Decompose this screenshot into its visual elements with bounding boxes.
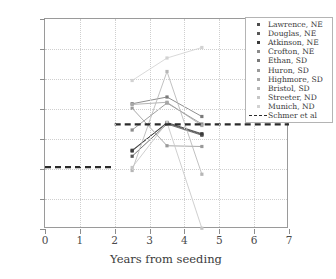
data-point-marker [200,132,203,135]
x-axis-title: Years from seeding [44,252,288,266]
data-series [131,95,204,118]
data-point-marker [200,115,203,118]
square-dot-icon [257,50,260,53]
x-axis-tick-label: 1 [70,235,90,245]
data-point-marker [165,70,168,73]
gridline-vertical [115,19,116,227]
x-axis-tick-label: 5 [209,235,229,245]
data-series [131,121,204,230]
gridline-horizontal [45,169,287,170]
chart-legend: Lawrence, NEDouglas, NEAtkinson, NECroft… [245,17,333,123]
legend-marker-icon [248,29,268,38]
gridline-vertical [150,19,151,227]
y-axis-tick [40,199,45,200]
legend-marker-icon [248,56,268,65]
x-axis-tick-label: 3 [140,235,160,245]
legend-item-label: Crofton, NE [268,47,314,56]
legend-item[interactable]: Ethan, SD [248,56,330,65]
series-layer [131,46,204,230]
data-series [131,101,204,131]
gridline-vertical [80,19,81,227]
data-point-marker [131,155,134,158]
data-point-marker [165,144,168,147]
data-point-marker [131,149,134,152]
square-dot-icon [257,105,260,108]
legend-item[interactable]: Crofton, NE [248,47,330,56]
legend-marker-icon [248,75,268,84]
square-dot-icon [257,87,260,90]
legend-item[interactable]: Schmer et al [248,111,330,120]
y-axis-tick [40,109,45,110]
square-dot-icon [257,32,260,35]
legend-item-label: Munich, ND [268,102,315,111]
data-point-marker [200,173,203,176]
legend-item[interactable]: Streeter, ND [248,93,330,102]
legend-item[interactable]: Munich, ND [248,102,330,111]
legend-item[interactable]: Douglas, NE [248,29,330,38]
legend-item[interactable]: Huron, SD [248,65,330,74]
legend-item[interactable]: Atkinson, NE [248,38,330,47]
legend-item[interactable]: Lawrence, NE [248,20,330,29]
square-dot-icon [257,23,260,26]
y-axis-tick [40,19,45,20]
chart-figure: Harvest yield, Mg water−free/ha 02468101… [0,0,336,279]
legend-item-label: Douglas, NE [268,29,316,38]
y-axis-tick [40,139,45,140]
legend-item-label: Lawrence, NE [268,20,323,29]
data-point-marker [131,103,134,106]
data-point-marker [200,145,203,148]
data-series [131,107,204,148]
legend-item-label: Bristol, SD [268,84,310,93]
data-series [131,122,204,157]
square-dot-icon [257,59,260,62]
data-point-marker [200,124,203,127]
y-axis-tick [40,49,45,50]
data-point-marker [131,128,134,131]
data-point-marker [165,101,168,104]
data-point-marker [165,95,168,98]
y-axis-title-container: Harvest yield, Mg water−free/ha [0,18,16,228]
series-line [132,97,202,117]
data-series [131,46,204,82]
legend-item-label: Atkinson, NE [268,38,319,47]
legend-marker-icon [248,66,268,75]
legend-item-label: Highmore, SD [268,75,323,84]
legend-item[interactable]: Bristol, SD [248,84,330,93]
square-dot-icon [257,78,260,81]
series-line [132,103,202,130]
legend-marker-icon [248,38,268,47]
y-axis-tick [40,169,45,170]
gridline-vertical [219,19,220,227]
legend-marker-icon [248,47,268,56]
square-dot-icon [257,69,260,72]
legend-marker-icon [248,20,268,29]
square-dot-icon [257,96,260,99]
x-axis-tick-label: 7 [279,235,299,245]
legend-item-label: Schmer et al [268,111,317,120]
legend-dashed-line-icon [248,111,268,120]
legend-marker-icon [248,93,268,102]
legend-item-label: Ethan, SD [268,56,307,65]
x-axis-tick-label: 4 [174,235,194,245]
x-axis-tick-label: 0 [35,235,55,245]
x-axis-tick-label: 2 [105,235,125,245]
y-axis-tick [40,79,45,80]
legend-marker-icon [248,102,268,111]
dashed-line-icon [249,115,267,116]
legend-item-label: Streeter, ND [268,93,317,102]
series-line [132,48,202,81]
x-axis-tick-label: 6 [244,235,264,245]
square-dot-icon [257,41,260,44]
gridline-vertical [184,19,185,227]
data-point-marker [165,56,168,59]
gridline-horizontal [45,199,287,200]
legend-item[interactable]: Highmore, SD [248,75,330,84]
data-point-marker [200,227,203,230]
legend-marker-icon [248,84,268,93]
legend-item-label: Huron, SD [268,66,309,75]
gridline-horizontal [45,139,287,140]
